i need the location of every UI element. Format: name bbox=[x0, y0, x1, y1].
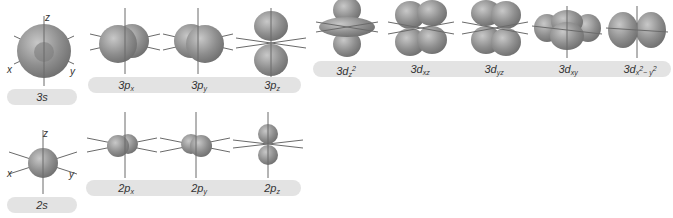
orbital-2s-sphere bbox=[5, 130, 81, 194]
orbital-3dyz bbox=[462, 0, 528, 58]
label-2px: 2px bbox=[118, 180, 134, 196]
orbital-3py bbox=[163, 8, 233, 74]
orbital-2px bbox=[87, 112, 157, 178]
x-axis-label: x bbox=[7, 64, 12, 75]
y-axis-label-2s: y bbox=[69, 169, 74, 180]
label-2pz: 2pz bbox=[264, 180, 280, 196]
label-3py: 3py bbox=[191, 77, 207, 93]
label-2py: 2py bbox=[191, 180, 207, 196]
label-3dz2: 3dz2 bbox=[336, 61, 356, 77]
label-3dxz: 3dxz bbox=[410, 61, 429, 77]
label-2s: 2s bbox=[36, 197, 48, 213]
label-3s: 3s bbox=[36, 89, 48, 105]
label-bar-3p: 3px 3py 3pz bbox=[88, 77, 301, 93]
label-bar-3s: 3s bbox=[7, 89, 77, 105]
orbital-3dxy bbox=[532, 6, 602, 58]
x-axis-label-2s: x bbox=[7, 168, 12, 179]
orbital-3dxz bbox=[388, 0, 454, 58]
orbital-3px bbox=[90, 8, 160, 74]
z-axis-label-2s: z bbox=[43, 128, 48, 139]
orbital-2py bbox=[160, 112, 230, 178]
label-3pz: 3pz bbox=[264, 77, 280, 93]
label-bar-3d: 3dz2 3dxz 3dyz 3dxy 3dx2− y2 bbox=[313, 61, 671, 77]
orbital-2pz bbox=[233, 112, 303, 178]
orbital-3dz2 bbox=[314, 0, 380, 58]
orbital-3dx2-y2 bbox=[606, 6, 668, 58]
label-3dyz: 3dyz bbox=[484, 61, 503, 77]
label-bar-2s: 2s bbox=[7, 197, 77, 213]
y-axis-label: y bbox=[70, 66, 75, 77]
label-bar-2p: 2px 2py 2pz bbox=[86, 180, 301, 196]
label-3dx2-y2: 3dx2− y2 bbox=[623, 61, 656, 77]
label-3dxy: 3dxy bbox=[558, 61, 577, 77]
label-3px: 3px bbox=[118, 77, 134, 93]
z-axis-label: z bbox=[45, 12, 50, 23]
orbital-3pz bbox=[236, 8, 306, 74]
